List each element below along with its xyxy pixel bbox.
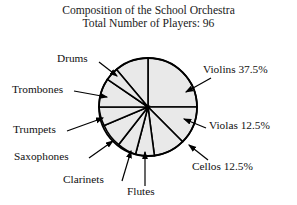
label-drums: Drums	[57, 53, 88, 64]
pie-chart-graphic	[0, 0, 297, 205]
label-saxophones: Saxophones	[14, 151, 69, 162]
label-trombones: Trombones	[12, 84, 63, 95]
pie-chart-figure: Composition of the School Orchestra Tota…	[0, 0, 297, 205]
leader-line-trumpets	[67, 118, 103, 131]
label-flutes: Flutes	[127, 186, 155, 197]
label-violas: Violas 12.5%	[209, 120, 270, 131]
leader-line-drums	[99, 62, 117, 76]
label-clarinets: Clarinets	[63, 174, 104, 185]
leader-line-cellos	[189, 145, 208, 160]
leader-line-clarinets	[122, 151, 131, 181]
leader-line-saxophones	[89, 141, 113, 158]
label-cellos: Cellos 12.5%	[192, 161, 253, 172]
label-trumpets: Trumpets	[13, 124, 56, 135]
label-violins: Violins 37.5%	[203, 64, 268, 75]
